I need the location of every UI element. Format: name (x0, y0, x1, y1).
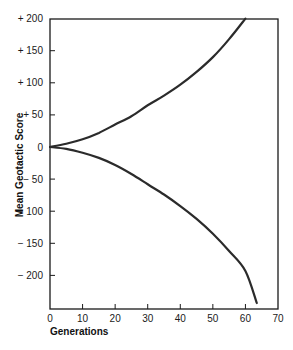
lower-curve-line (50, 147, 257, 303)
x-tick-label: 70 (272, 313, 284, 324)
x-tick-label: 50 (207, 313, 219, 324)
y-tick-label: + 100 (18, 77, 44, 88)
x-tick-label: 30 (142, 313, 154, 324)
plot-frame (50, 19, 278, 309)
x-tick-label: 10 (77, 313, 89, 324)
x-axis-ticks: 010203040506070 (47, 304, 284, 324)
y-tick-label: + 200 (18, 13, 44, 24)
x-tick-label: 60 (240, 313, 252, 324)
y-tick-label: + 150 (18, 45, 44, 56)
x-tick-label: 40 (175, 313, 187, 324)
data-series (50, 19, 257, 303)
y-tick-label: − 50 (23, 174, 43, 185)
y-tick-label: − 200 (18, 270, 44, 281)
x-tick-label: 0 (47, 313, 53, 324)
y-tick-label: − 150 (18, 238, 44, 249)
y-tick-label: 0 (37, 142, 43, 153)
x-axis-title: Generations (50, 326, 109, 337)
x-tick-label: 20 (110, 313, 122, 324)
y-tick-label: + 50 (23, 109, 43, 120)
y-axis-title: Mean Geotactic Score (14, 112, 25, 217)
upper-curve-line (50, 19, 245, 147)
line-chart: + 200+ 150+ 100+ 500− 50− 100− 150− 200 … (0, 0, 293, 350)
